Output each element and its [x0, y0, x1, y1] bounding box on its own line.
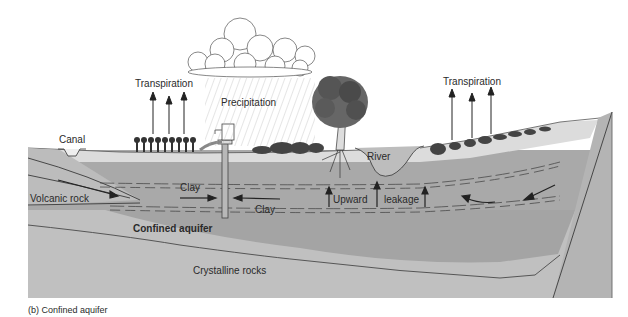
- transpiration-right-label: Transpiration: [443, 76, 501, 87]
- transpiration-arrows-left: [150, 92, 187, 134]
- rain-area: [205, 78, 315, 146]
- cloud-icon: [188, 18, 315, 77]
- canal-label: Canal: [59, 134, 85, 145]
- upward-label: Upward: [333, 194, 367, 205]
- clay-lower-label: Clay: [255, 204, 275, 215]
- leakage-label: leakage: [384, 194, 419, 205]
- figure-caption: (b) Confined aquifer: [28, 305, 108, 315]
- transpiration-arrows-right: [449, 87, 494, 140]
- river-label: River: [367, 151, 391, 162]
- confined-aquifer-diagram: Transpiration Transpiration Precipitatio…: [0, 0, 628, 317]
- clay-upper-label: Clay: [180, 182, 200, 193]
- volcanic-rock-label: Volcanic rock: [30, 193, 90, 204]
- crystalline-rocks-label: Crystalline rocks: [193, 265, 266, 276]
- transpiration-left-label: Transpiration: [135, 78, 193, 89]
- precipitation-label: Precipitation: [221, 97, 276, 108]
- crops-left: [134, 137, 196, 152]
- confined-aquifer-label: Confined aquifer: [133, 223, 213, 234]
